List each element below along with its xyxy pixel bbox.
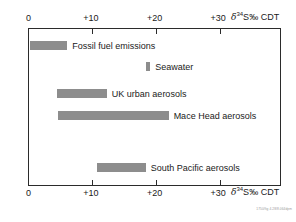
range-bar-label-south-pacific-aerosols: South Pacific aerosols bbox=[151, 163, 240, 173]
range-bar-label-uk-urban-aerosols: UK urban aerosols bbox=[112, 89, 187, 99]
axis-title-bottom: δ34S‰ CDT bbox=[231, 187, 279, 197]
range-bar-uk-urban-aerosols bbox=[57, 89, 107, 98]
axis-tick-top-plus30 bbox=[220, 29, 221, 34]
axis-tick-label-top-0: 0 bbox=[26, 13, 31, 23]
range-bar-label-mace-head-aerosols: Mace Head aerosols bbox=[174, 111, 257, 121]
axis-line-top bbox=[28, 28, 281, 29]
standard-label-bottom: CDT bbox=[261, 187, 280, 197]
axis-tick-top-plus20 bbox=[156, 29, 157, 34]
plate-id-text: 1750/fig 4.28/8.064dpm bbox=[256, 207, 292, 211]
axis-tick-bottom-plus10 bbox=[92, 180, 93, 185]
axis-tick-label-top-plus30: +30 bbox=[211, 13, 226, 23]
axis-tick-label-bottom-plus30: +30 bbox=[211, 188, 226, 198]
axis-tick-label-bottom-plus10: +10 bbox=[83, 188, 98, 198]
axis-tick-label-bottom-plus20: +20 bbox=[147, 188, 162, 198]
range-bar-south-pacific-aerosols bbox=[97, 163, 146, 172]
axis-tick-label-top-plus10: +10 bbox=[83, 13, 98, 23]
standard-label-top: CDT bbox=[261, 12, 280, 22]
axis-title-top: δ34S‰ CDT bbox=[231, 12, 279, 22]
axis-tick-top-plus10 bbox=[92, 29, 93, 34]
range-bar-label-fossil-fuel-emissions: Fossil fuel emissions bbox=[72, 41, 155, 51]
range-bar-fossil-fuel-emissions bbox=[30, 41, 68, 50]
permil-symbol-bottom: ‰ bbox=[249, 187, 258, 197]
range-bar-mace-head-aerosols bbox=[58, 111, 169, 120]
axis-tick-label-bottom-0: 0 bbox=[26, 188, 31, 198]
range-bar-label-seawater: Seawater bbox=[155, 62, 193, 72]
range-bar-seawater bbox=[146, 62, 150, 71]
axis-tick-label-top-plus20: +20 bbox=[147, 13, 162, 23]
sulfur-isotope-range-chart: 00+10+10+20+20+30+30 δ34S‰ CDT δ34S‰ CDT… bbox=[0, 0, 296, 222]
axis-line-left bbox=[28, 28, 29, 186]
axis-line-right bbox=[280, 28, 281, 186]
axis-tick-bottom-plus20 bbox=[156, 180, 157, 185]
axis-tick-bottom-plus30 bbox=[220, 180, 221, 185]
permil-symbol-top: ‰ bbox=[249, 12, 258, 22]
